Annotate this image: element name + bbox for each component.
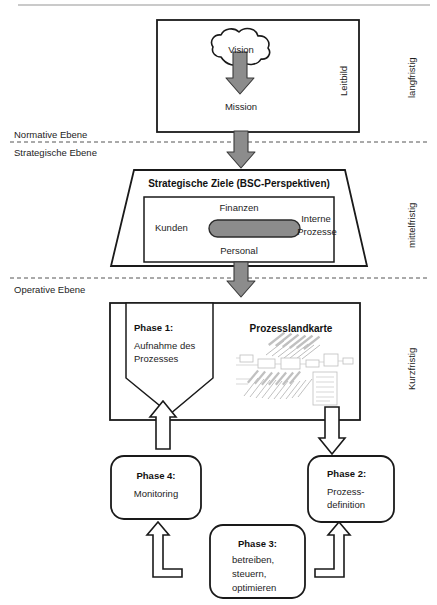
level-label-strategisch: Strategische Ebene: [14, 147, 97, 159]
phase-2-line-1: Prozess-: [327, 486, 364, 498]
phase-3-line-1: betreiben,: [232, 554, 274, 566]
leitbild-label: Leitbild: [338, 66, 350, 96]
level-label-operativ: Operative Ebene: [14, 284, 85, 296]
strategic-to-operative-arrow-icon: [227, 262, 255, 297]
horizon-label-langfristig: langfristig: [406, 57, 418, 98]
diagram-vector-layer: [0, 0, 437, 605]
phase-2-line-2: definition: [327, 499, 365, 511]
phase-3-line-2: steuern,: [232, 568, 266, 580]
phase-4-line-1: Monitoring: [111, 488, 201, 500]
phase-4-title: Phase 4:: [111, 470, 201, 482]
normative-to-strategic-arrow-icon: [227, 131, 255, 168]
level-label-normative: Normative Ebene: [14, 129, 87, 141]
horizon-label-kurzfristig: Kurzfristig: [406, 348, 418, 390]
bsc-center-pill: [209, 220, 300, 237]
phase-1-title: Phase 1:: [134, 322, 173, 334]
bsc-perspective-personal: Personal: [203, 245, 275, 257]
prozesslandkarte-title: Prozesslandkarte: [226, 323, 356, 336]
bsc-perspective-kunden: Kunden: [155, 222, 188, 234]
vision-label: Vision: [213, 44, 269, 56]
phase-1-line2: Prozesses: [134, 353, 178, 365]
bsc-perspective-prozesse: Prozesse: [296, 226, 338, 238]
phase-2-title: Phase 2:: [327, 468, 366, 480]
phase-3-title: Phase 3:: [210, 538, 305, 550]
phase3-to-phase4-elbow-arrow-icon: [147, 522, 182, 577]
phase-3-line-3: optimieren: [232, 582, 276, 594]
bsc-heading: Strategische Ziele (BSC-Perspektiven): [136, 178, 342, 191]
diagram-canvas: Normative Ebene Strategische Ebene Opera…: [0, 0, 437, 605]
mission-label: Mission: [206, 101, 276, 113]
bsc-perspective-interne: Interne: [300, 213, 332, 225]
bsc-perspective-finanzen: Finanzen: [204, 202, 274, 214]
phase2-to-phase3-elbow-arrow-icon: [315, 522, 350, 577]
phase-1-line1: Aufnahme des: [134, 340, 195, 352]
horizon-label-mittelfristig: mittelfristig: [406, 203, 418, 248]
